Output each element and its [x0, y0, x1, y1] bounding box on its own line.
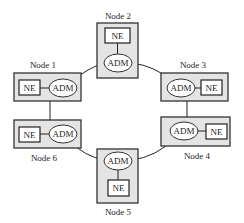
node-5-ne-label: NE	[113, 183, 125, 193]
node-6: NE ADM Node 6	[14, 120, 81, 163]
node-5-adm-label: ADM	[107, 156, 128, 166]
node-1-adm-label: ADM	[52, 83, 73, 93]
node-6-adm-label: ADM	[52, 129, 73, 139]
node-4-adm-label: ADM	[173, 126, 194, 136]
node-1: Node 1 NE ADM	[14, 60, 81, 101]
node-3: Node 3 ADM NE	[161, 60, 228, 101]
node-2-ne-label: NE	[112, 31, 124, 41]
node-6-ne-label: NE	[24, 130, 36, 140]
node-4-ne-label: NE	[211, 127, 223, 137]
node-5-label: Node 5	[105, 207, 132, 217]
node-5: ADM NE Node 5	[97, 149, 138, 217]
ring-diagram: Node 2 NE ADM Node 1 NE ADM Node 3 ADM N…	[0, 0, 244, 223]
node-2-label: Node 2	[105, 11, 131, 21]
node-3-adm-label: ADM	[170, 83, 191, 93]
node-4-label: Node 4	[184, 151, 211, 161]
node-4: ADM NE Node 4	[161, 117, 230, 161]
node-1-label: Node 1	[30, 60, 56, 70]
node-1-ne-label: NE	[24, 83, 36, 93]
node-2-adm-label: ADM	[107, 58, 128, 68]
node-3-ne-label: NE	[206, 83, 218, 93]
node-6-label: Node 6	[31, 153, 58, 163]
node-2: Node 2 NE ADM	[97, 11, 138, 78]
node-3-label: Node 3	[180, 60, 207, 70]
